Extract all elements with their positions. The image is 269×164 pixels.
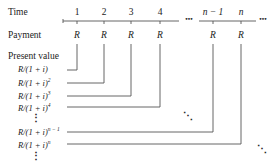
diagonal-ellipsis-2: ⋱ [257,144,267,154]
diagonal-ellipsis-1: ⋱ [183,111,193,121]
diagram-lines [0,0,269,164]
